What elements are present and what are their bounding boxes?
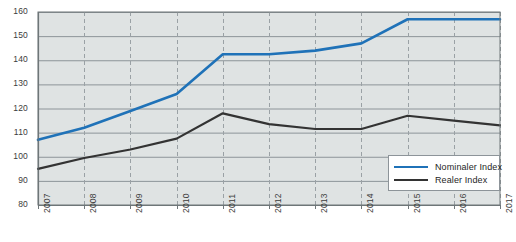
x-tick-label: 2015 <box>412 193 422 213</box>
y-tick-label: 150 <box>2 30 28 40</box>
x-tick-label: 2012 <box>273 193 283 213</box>
y-tick-label: 90 <box>2 175 28 185</box>
x-tick-label: 2007 <box>42 193 52 213</box>
x-tick-label: 2009 <box>134 193 144 213</box>
x-tick-label: 2017 <box>504 193 514 213</box>
y-tick-label: 120 <box>2 103 28 113</box>
legend-item-nominal: Nominaler Index <box>394 160 493 173</box>
plot-canvas <box>0 0 516 242</box>
x-tick-label: 2013 <box>319 193 329 213</box>
x-tick-label: 2011 <box>227 194 237 213</box>
index-line-chart: 8090100110120130140150160 20072008200920… <box>0 0 516 242</box>
x-tick-label: 2008 <box>88 193 98 213</box>
x-tick-label: 2010 <box>181 193 191 213</box>
legend-swatch-nominal <box>394 166 428 168</box>
x-tick-label: 2014 <box>365 193 375 213</box>
legend-label-real: Realer Index <box>435 175 487 185</box>
y-tick-label: 130 <box>2 78 28 88</box>
y-tick-label: 100 <box>2 151 28 161</box>
y-tick-label: 110 <box>2 127 28 137</box>
legend-item-real: Realer Index <box>394 173 493 186</box>
y-tick-label: 80 <box>2 199 28 209</box>
legend-label-nominal: Nominaler Index <box>435 162 502 172</box>
x-tick-label: 2016 <box>458 193 468 213</box>
legend-swatch-real <box>394 179 428 181</box>
chart-legend: Nominaler Index Realer Index <box>388 155 500 191</box>
y-tick-label: 140 <box>2 54 28 64</box>
y-tick-label: 160 <box>2 6 28 16</box>
